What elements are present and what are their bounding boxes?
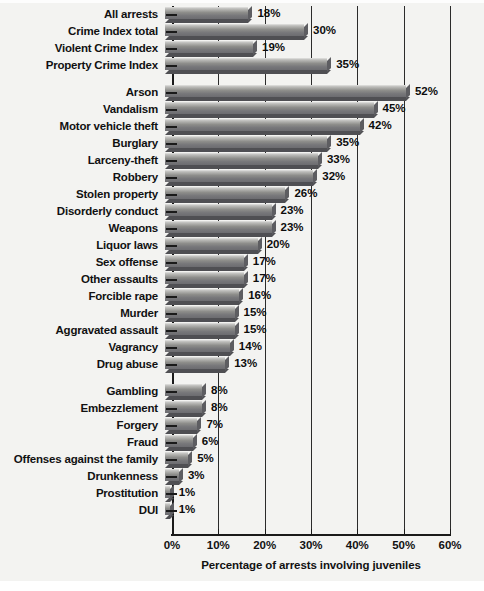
bar-row: Stolen property26% xyxy=(0,186,484,203)
y-tick xyxy=(166,330,177,332)
bar-value-label: 42% xyxy=(369,118,392,133)
category-label: Vagrancy xyxy=(0,339,165,356)
bar-row: Weapons23% xyxy=(0,220,484,237)
bar-track: 32% xyxy=(165,169,484,186)
x-axis-line xyxy=(171,534,451,536)
y-tick xyxy=(166,48,177,50)
category-label: Disorderly conduct xyxy=(0,203,165,220)
x-tick xyxy=(265,529,266,534)
bar-track: 14% xyxy=(165,339,484,356)
category-label: Stolen property xyxy=(0,186,165,203)
category-label: Robbery xyxy=(0,169,165,186)
bar-track: 33% xyxy=(165,152,484,169)
category-label: Drunkenness xyxy=(0,468,165,485)
bar-row: Drunkenness3% xyxy=(0,468,484,485)
category-label: Embezzlement xyxy=(0,400,165,417)
bar-track: 15% xyxy=(165,322,484,339)
y-tick xyxy=(166,347,177,349)
bar-track: 30% xyxy=(165,23,484,40)
bar xyxy=(165,102,374,114)
bar-value-label: 8% xyxy=(211,383,228,398)
bar-value-label: 7% xyxy=(206,417,223,432)
bar-rows: All arrests18%Crime Index total30%Violen… xyxy=(0,6,484,519)
bar-row: Prostitution1% xyxy=(0,485,484,502)
bar-track: 26% xyxy=(165,186,484,203)
group-separator xyxy=(0,74,484,84)
y-tick xyxy=(166,364,177,366)
bar-track: 1% xyxy=(165,485,484,502)
bar-track: 17% xyxy=(165,254,484,271)
bar-row: Arson52% xyxy=(0,84,484,101)
bar-value-label: 14% xyxy=(239,339,262,354)
bar-row: Robbery32% xyxy=(0,169,484,186)
bar-track: 35% xyxy=(165,57,484,74)
y-tick xyxy=(166,476,177,478)
bar-row: Fraud6% xyxy=(0,434,484,451)
bar-track: 23% xyxy=(165,220,484,237)
bar-track: 3% xyxy=(165,468,484,485)
x-tick xyxy=(404,529,405,534)
bar-row: Property Crime Index35% xyxy=(0,57,484,74)
bar-value-label: 33% xyxy=(327,152,350,167)
y-tick xyxy=(166,279,177,281)
y-tick xyxy=(166,65,177,67)
bar-track: 18% xyxy=(165,6,484,23)
y-tick xyxy=(166,109,177,111)
bar-track: 19% xyxy=(165,40,484,57)
bar-value-label: 35% xyxy=(336,57,359,72)
category-label: Crime Index total xyxy=(0,23,165,40)
y-tick xyxy=(166,442,177,444)
category-label: Forcible rape xyxy=(0,288,165,305)
bar xyxy=(165,119,360,131)
bar xyxy=(165,58,327,70)
plot-area: All arrests18%Crime Index total30%Violen… xyxy=(0,6,484,534)
category-label: Liquor laws xyxy=(0,237,165,254)
bar-track: 35% xyxy=(165,135,484,152)
bar-track: 7% xyxy=(165,417,484,434)
bar-row: Motor vehicle theft42% xyxy=(0,118,484,135)
y-tick xyxy=(166,160,177,162)
bar-row: Drug abuse13% xyxy=(0,356,484,373)
category-label: Property Crime Index xyxy=(0,57,165,74)
category-label: DUI xyxy=(0,502,165,519)
page-top-edge xyxy=(0,0,484,3)
category-label: Sex offense xyxy=(0,254,165,271)
bar-track: 23% xyxy=(165,203,484,220)
bar-row: Other assaults17% xyxy=(0,271,484,288)
bar-value-label: 17% xyxy=(253,271,276,286)
bar-track: 13% xyxy=(165,356,484,373)
bar-value-label: 32% xyxy=(322,169,345,184)
y-tick xyxy=(166,228,177,230)
bar-track: 15% xyxy=(165,305,484,322)
y-tick xyxy=(166,177,177,179)
page-bottom-edge xyxy=(0,581,484,591)
bar-track: 17% xyxy=(165,271,484,288)
bar-track: 6% xyxy=(165,434,484,451)
bar-value-label: 35% xyxy=(336,135,359,150)
category-label: All arrests xyxy=(0,6,165,23)
bar-value-label: 18% xyxy=(257,6,280,21)
bar-track: 5% xyxy=(165,451,484,468)
x-tick-label: 50% xyxy=(392,539,415,551)
category-label: Prostitution xyxy=(0,485,165,502)
bar-track: 20% xyxy=(165,237,484,254)
y-tick xyxy=(166,425,177,427)
bar-row: Murder15% xyxy=(0,305,484,322)
x-tick-label: 0% xyxy=(164,539,181,551)
bar-row: Offenses against the family5% xyxy=(0,451,484,468)
category-label: Aggravated assault xyxy=(0,322,165,339)
y-tick xyxy=(166,126,177,128)
bar-value-label: 8% xyxy=(211,400,228,415)
category-label: Violent Crime Index xyxy=(0,40,165,57)
bar xyxy=(165,153,318,165)
y-tick xyxy=(166,92,177,94)
bar-row: Forgery7% xyxy=(0,417,484,434)
x-tick xyxy=(218,529,219,534)
bar xyxy=(165,136,327,148)
bar-value-label: 26% xyxy=(294,186,317,201)
category-label: Motor vehicle theft xyxy=(0,118,165,135)
bar-track: 8% xyxy=(165,400,484,417)
y-tick xyxy=(166,143,177,145)
category-label: Forgery xyxy=(0,417,165,434)
bar-row: Gambling8% xyxy=(0,383,484,400)
